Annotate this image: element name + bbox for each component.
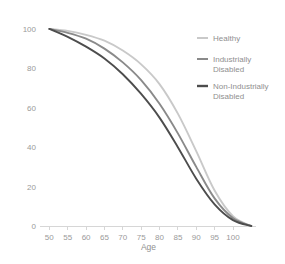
x-tick-label: 90 xyxy=(192,233,201,242)
x-tick-label: 60 xyxy=(82,233,91,242)
x-tick-label: 80 xyxy=(155,233,164,242)
y-tick-label-20: 20 xyxy=(27,183,36,192)
chart-canvas: 0 20 40 60 80 100 5055606570758085909510… xyxy=(0,0,285,264)
x-tick-label: 75 xyxy=(137,233,146,242)
y-tick-label-60: 60 xyxy=(27,104,36,113)
y-tick-label-100: 100 xyxy=(23,25,37,34)
legend-label-healthy: Healthy xyxy=(213,34,240,43)
survival-curve-chart: 0 20 40 60 80 100 5055606570758085909510… xyxy=(0,0,285,264)
y-tick-label-0: 0 xyxy=(32,222,37,231)
legend-label-non-industrially-disabled-line2: Disabled xyxy=(213,92,244,101)
x-tick-label: 100 xyxy=(226,233,240,242)
x-tick-label: 95 xyxy=(210,233,219,242)
legend: Healthy Industrially Disabled Non-Indust… xyxy=(197,34,269,101)
x-tick-label: 65 xyxy=(100,233,109,242)
x-tick-label: 55 xyxy=(63,233,72,242)
x-axis-tick-labels: 50556065707580859095100 xyxy=(45,233,240,242)
y-tick-label-80: 80 xyxy=(27,64,36,73)
legend-label-industrially-disabled-line2: Disabled xyxy=(213,65,244,74)
x-tick-label: 85 xyxy=(173,233,182,242)
y-tick-label-40: 40 xyxy=(27,143,36,152)
legend-label-non-industrially-disabled-line1: Non-Industrially xyxy=(213,82,269,91)
y-axis-tick-labels: 0 20 40 60 80 100 xyxy=(23,25,37,231)
legend-entry-industrially-disabled[interactable]: Industrially Disabled xyxy=(197,55,251,74)
legend-entry-healthy[interactable]: Healthy xyxy=(197,34,240,43)
x-axis-title: Age xyxy=(141,242,156,252)
legend-label-industrially-disabled-line1: Industrially xyxy=(213,55,251,64)
legend-entry-non-industrially-disabled[interactable]: Non-Industrially Disabled xyxy=(197,82,269,101)
x-tick-label: 70 xyxy=(118,233,127,242)
x-tick-label: 50 xyxy=(45,233,54,242)
